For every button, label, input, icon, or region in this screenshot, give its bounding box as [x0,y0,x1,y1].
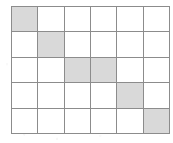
grid-cell-shaded [117,83,143,108]
grid-cell-shaded [38,32,64,57]
grid-cell-empty [12,32,38,57]
grid-cell-empty [38,83,64,108]
grid-cell-empty [143,57,169,82]
grid-cell-empty [117,32,143,57]
grid-cell-empty [38,57,64,82]
grid-table [11,6,170,134]
grid-cell-empty [12,83,38,108]
grid-row [12,7,170,32]
grid-cell-empty [143,83,169,108]
grid-cell-empty [64,108,90,133]
grid-cell-empty [143,7,169,32]
grid-cell-shaded [143,108,169,133]
grid-cell-empty [143,32,169,57]
grid-cell-empty [90,108,116,133]
grid-body [12,7,170,134]
grid-cell-shaded [64,57,90,82]
grid-row [12,83,170,108]
grid-cell-shaded [12,7,38,32]
grid-cell-empty [90,32,116,57]
grid-container [11,6,163,128]
grid-cell-empty [38,7,64,32]
grid-cell-empty [64,32,90,57]
grid-cell-empty [117,108,143,133]
grid-row [12,32,170,57]
shaded-grid-figure [0,0,173,143]
grid-row [12,57,170,82]
grid-cell-empty [12,108,38,133]
grid-cell-empty [64,7,90,32]
grid-row [12,108,170,133]
grid-cell-shaded [90,57,116,82]
grid-cell-empty [90,83,116,108]
grid-cell-empty [90,7,116,32]
grid-cell-empty [64,83,90,108]
grid-cell-empty [117,57,143,82]
grid-cell-empty [38,108,64,133]
grid-cell-empty [12,57,38,82]
grid-cell-empty [117,7,143,32]
